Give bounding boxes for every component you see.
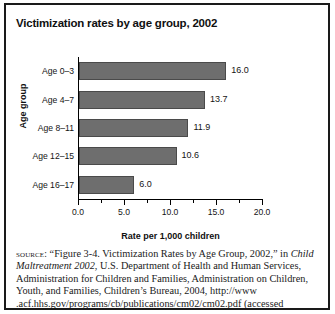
- x-axis-tick: [78, 200, 79, 205]
- bar-value-label: 13.7: [210, 94, 228, 104]
- source-text-part-1: “Figure 3-4. Victimization Rates by Age …: [47, 248, 291, 259]
- x-axis-tick-label: 10.0: [162, 207, 179, 217]
- category-label: Age 16–17: [32, 180, 74, 190]
- bar: [79, 119, 188, 137]
- figure-container: Victimization rates by age group, 2002 A…: [4, 3, 330, 310]
- x-axis-tick: [170, 200, 171, 205]
- y-axis-category-labels: Age 0–3Age 4–7Age 8–11Age 12–15Age 16–17: [6, 57, 74, 199]
- x-axis-tick-label: 15.0: [208, 207, 225, 217]
- plot-area: 16.013.711.910.66.00.05.010.015.020.0: [78, 57, 262, 199]
- page-title: Victimization rates by age group, 2002: [16, 17, 217, 29]
- bar: [79, 91, 205, 109]
- bar-value-label: 6.0: [139, 179, 152, 189]
- bar-value-label: 16.0: [231, 65, 249, 75]
- x-axis-tick-label: 20.0: [254, 207, 271, 217]
- source-note: source: “Figure 3-4. Victimization Rates…: [16, 248, 320, 310]
- x-axis-minor-tick: [193, 200, 194, 203]
- bar: [79, 62, 226, 80]
- x-axis-tick-label: 5.0: [118, 207, 130, 217]
- x-axis-minor-tick: [147, 200, 148, 203]
- category-label: Age 8–11: [38, 123, 74, 133]
- x-axis-tick: [216, 200, 217, 205]
- category-label: Age 4–7: [42, 95, 74, 105]
- x-axis-tick-label: 0.0: [72, 207, 84, 217]
- category-label: Age 0–3: [42, 66, 74, 76]
- x-axis-title: Rate per 1,000 children: [78, 231, 263, 241]
- source-label: source:: [16, 248, 47, 259]
- bar-value-label: 10.6: [182, 150, 200, 160]
- bar: [79, 147, 177, 165]
- bar-value-label: 11.9: [193, 122, 210, 132]
- x-axis-minor-tick: [239, 200, 240, 203]
- x-axis-tick: [124, 200, 125, 205]
- x-axis-tick: [262, 200, 263, 205]
- bar: [79, 176, 134, 194]
- category-label: Age 12–15: [32, 151, 74, 161]
- x-axis-minor-tick: [101, 200, 102, 203]
- y-axis-title: Age group: [18, 84, 28, 129]
